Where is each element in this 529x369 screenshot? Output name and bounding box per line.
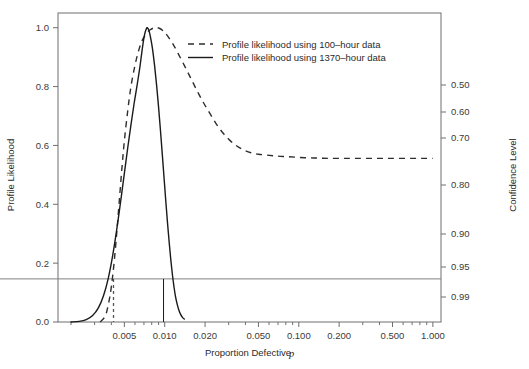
curve-1370-hour-data <box>71 28 184 322</box>
x-tick-label-0: 0.005 <box>112 330 136 341</box>
x-axis-major-ticks <box>124 322 433 327</box>
confidence-bound-drop-lines <box>113 279 163 322</box>
y-axis-tick-labels: 0.00.20.40.60.81.0 <box>36 22 49 327</box>
y2-axis-tick-labels: 0.500.600.700.800.900.950.99 <box>451 79 470 302</box>
y2-axis-ticks <box>441 85 446 297</box>
y2-tick-label-6: 0.99 <box>451 291 470 302</box>
y-axis-title: Profile Likelihood <box>5 139 16 211</box>
x-axis-title-variable: p <box>288 348 294 359</box>
y2-axis-title: Confidence Level <box>507 138 518 211</box>
chart-legend: Profile likelihood using 100–hour dataPr… <box>188 39 386 64</box>
x-tick-label-4: 0.100 <box>287 330 311 341</box>
x-tick-label-1: 0.010 <box>153 330 177 341</box>
y-tick-label-3: 0.6 <box>36 140 49 151</box>
legend-label-0: Profile likelihood using 100–hour data <box>222 39 381 50</box>
x-tick-label-6: 0.500 <box>381 330 405 341</box>
x-tick-label-3: 0.050 <box>247 330 271 341</box>
y2-tick-label-4: 0.90 <box>451 228 470 239</box>
y2-tick-label-0: 0.50 <box>451 79 470 90</box>
y-tick-label-1: 0.2 <box>36 258 49 269</box>
y-tick-label-2: 0.4 <box>36 199 49 210</box>
y2-tick-label-2: 0.70 <box>451 132 470 143</box>
y2-tick-label-5: 0.95 <box>451 261 470 272</box>
curve-100-hour-data <box>100 28 433 322</box>
y2-tick-label-1: 0.60 <box>451 106 470 117</box>
y-tick-label-4: 0.8 <box>36 81 49 92</box>
y2-tick-label-3: 0.80 <box>451 179 470 190</box>
x-tick-label-2: 0.020 <box>193 330 217 341</box>
y-tick-label-5: 1.0 <box>36 22 49 33</box>
x-tick-label-7: 1.000 <box>421 330 445 341</box>
profile-likelihood-figure: 0.0050.0100.0200.0500.1000.2000.5001.000… <box>0 0 529 369</box>
legend-label-1: Profile likelihood using 1370–hour data <box>222 52 386 63</box>
x-axis-title: Proportion Defective <box>205 347 291 358</box>
profile-likelihood-chart: 0.0050.0100.0200.0500.1000.2000.5001.000… <box>0 0 529 369</box>
x-axis-tick-labels: 0.0050.0100.0200.0500.1000.2000.5001.000 <box>112 330 444 341</box>
y-axis-ticks <box>53 28 58 322</box>
y-tick-label-0: 0.0 <box>36 316 49 327</box>
x-tick-label-5: 0.200 <box>327 330 351 341</box>
